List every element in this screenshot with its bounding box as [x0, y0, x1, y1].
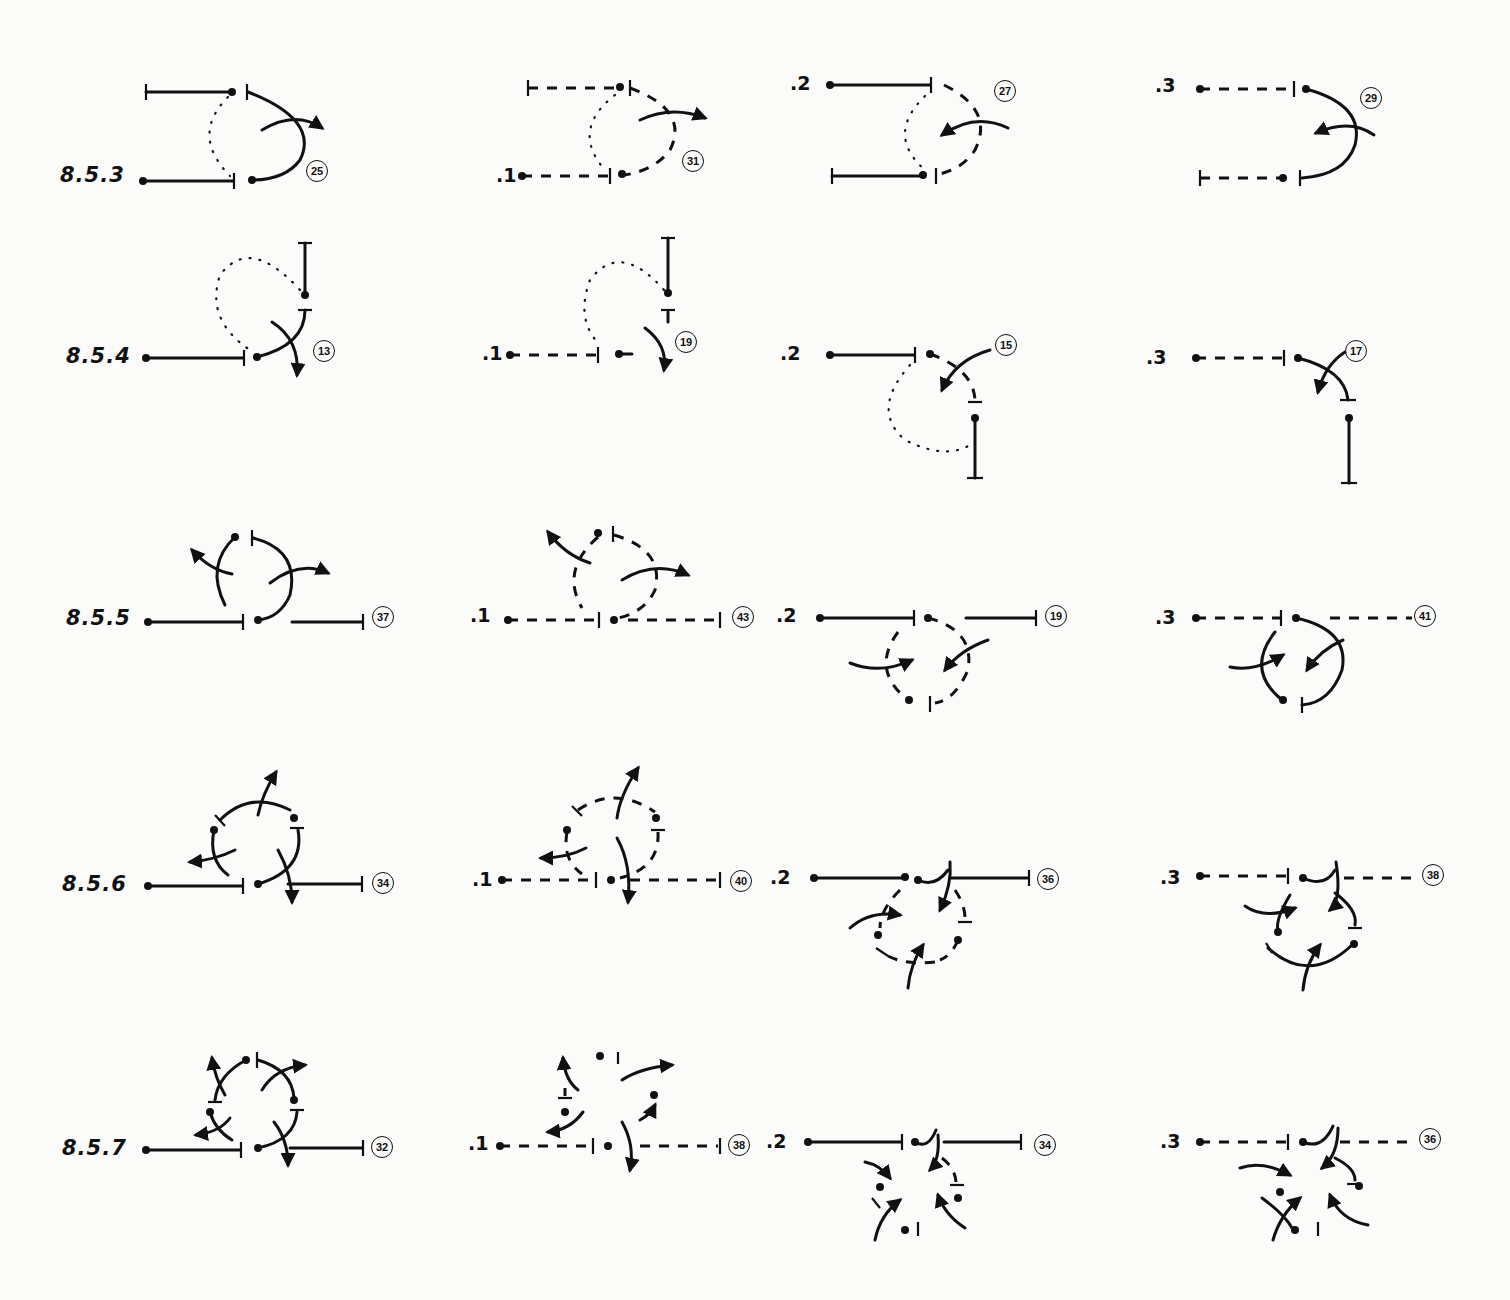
diagram-8-5-4-3	[1192, 350, 1357, 483]
diagram-8-5-7-1	[496, 1052, 720, 1170]
diagram-8-5-6	[144, 772, 362, 902]
diagram-8-5-3-1	[518, 80, 705, 184]
diagram-8-5-4-1	[506, 238, 675, 370]
diagram-8-5-5-2	[816, 610, 1036, 712]
diagram-8-5-5	[144, 530, 363, 630]
diagram-8-5-5-3	[1192, 610, 1412, 713]
diagram-8-5-7-2	[804, 1130, 1021, 1240]
diagram-canvas	[0, 0, 1510, 1300]
diagram-8-5-7	[142, 1052, 363, 1165]
diagram-8-5-6-1	[498, 768, 720, 902]
diagram-8-5-4-2	[826, 347, 990, 478]
diagram-8-5-5-1	[504, 526, 720, 628]
diagram-8-5-6-3	[1196, 862, 1420, 990]
diagram-8-5-3	[139, 84, 322, 189]
diagram-8-5-4	[142, 243, 312, 375]
diagram-8-5-3-2	[826, 77, 1008, 184]
diagram-8-5-3-3	[1196, 81, 1374, 186]
diagram-8-5-6-2	[810, 862, 1029, 988]
diagram-8-5-7-3	[1196, 1126, 1414, 1240]
